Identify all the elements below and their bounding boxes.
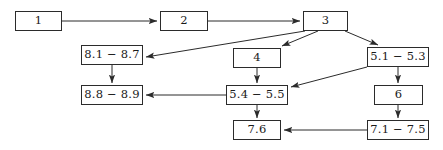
- node-label: 5.4 − 5.5: [229, 89, 284, 101]
- node-label: 7.6: [248, 124, 267, 136]
- node-n71[interactable]: 7.1 − 7.5: [367, 120, 429, 140]
- node-label: 6: [395, 89, 403, 101]
- node-n54[interactable]: 5.4 − 5.5: [226, 85, 288, 105]
- node-n88[interactable]: 8.8 − 8.9: [81, 85, 143, 105]
- node-label: 2: [180, 15, 188, 27]
- node-n2[interactable]: 2: [160, 11, 208, 31]
- edge-n51-to-n54: [291, 67, 367, 87]
- node-label: 8.1 − 8.7: [84, 49, 139, 61]
- node-n51[interactable]: 5.1 − 5.3: [367, 47, 429, 67]
- node-label: 3: [322, 15, 330, 27]
- edge-n3-to-n81: [146, 31, 305, 57]
- node-n76[interactable]: 7.6: [233, 120, 281, 140]
- node-n3[interactable]: 3: [303, 11, 348, 31]
- edge-n3-to-n51: [345, 31, 378, 45]
- node-label: 1: [35, 15, 43, 27]
- node-label: 8.8 − 8.9: [84, 89, 139, 101]
- node-n6[interactable]: 6: [374, 85, 423, 105]
- node-label: 7.1 − 7.5: [370, 124, 425, 136]
- edge-n3-to-n4: [282, 31, 318, 46]
- flow-diagram: 1238.1 − 8.745.1 − 5.38.8 − 8.95.4 − 5.5…: [0, 0, 443, 150]
- node-label: 5.1 − 5.3: [370, 51, 425, 63]
- node-n1[interactable]: 1: [15, 11, 62, 31]
- node-n4[interactable]: 4: [233, 48, 281, 68]
- node-label: 4: [253, 52, 261, 64]
- node-n81[interactable]: 8.1 − 8.7: [81, 45, 143, 65]
